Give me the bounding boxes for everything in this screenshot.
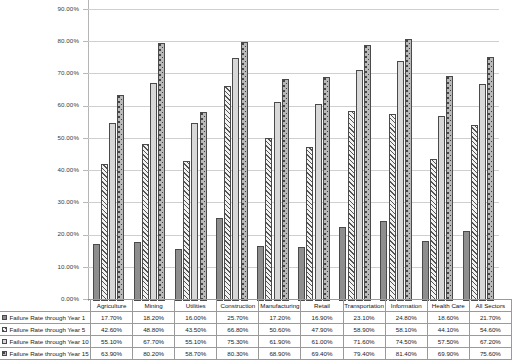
bar[interactable]: [405, 39, 412, 301]
table-cell-value: 57.50%: [427, 336, 469, 348]
table-cell-value: 24.80%: [385, 312, 427, 324]
table-cell-value: 68.90%: [259, 348, 301, 360]
table-cell-value: 69.90%: [427, 348, 469, 360]
table-cell-value: 17.70%: [91, 312, 133, 324]
bar-group: [252, 0, 293, 303]
bar[interactable]: [438, 116, 445, 301]
bar[interactable]: [463, 231, 470, 301]
bar[interactable]: [356, 70, 363, 301]
bar[interactable]: [175, 249, 182, 301]
bar-group: [417, 0, 458, 303]
bar[interactable]: [487, 57, 494, 301]
bar[interactable]: [323, 77, 330, 301]
bar[interactable]: [364, 45, 371, 301]
table-cell-value: 75.30%: [217, 336, 259, 348]
table-header-row: AgricultureMiningUtilitiesConstructionMa…: [0, 300, 511, 312]
bar[interactable]: [257, 246, 264, 301]
legend-entry[interactable]: Failure Rate through Year 10: [0, 336, 91, 348]
table-column-header: Health Care: [427, 300, 469, 312]
table-cell-value: 71.60%: [343, 336, 385, 348]
legend-series-name: Failure Rate through Year 15: [10, 348, 89, 359]
legend-swatch-icon: [2, 315, 7, 320]
bar[interactable]: [389, 114, 396, 301]
table-body: Failure Rate through Year 117.70%18.20%1…: [0, 312, 511, 360]
bar[interactable]: [191, 123, 198, 301]
table-cell-value: 23.10%: [343, 312, 385, 324]
table-column-header: Mining: [133, 300, 175, 312]
legend-series-name: Failure Rate through Year 5: [10, 324, 86, 335]
y-axis-tick-label: 50.00%: [9, 135, 79, 141]
bar[interactable]: [216, 218, 223, 301]
bar-group: [88, 0, 129, 303]
table-cell-value: 18.60%: [427, 312, 469, 324]
bar[interactable]: [142, 144, 149, 301]
y-axis-tick-label: 10.00%: [9, 264, 79, 270]
legend-row-label: Failure Rate through Year 5: [2, 324, 85, 335]
table-cell-value: 43.50%: [175, 324, 217, 336]
legend-row-label: Failure Rate through Year 1: [2, 312, 85, 323]
bar[interactable]: [265, 138, 272, 301]
legend-entry[interactable]: Failure Rate through Year 5: [0, 324, 91, 336]
legend-entry[interactable]: Failure Rate through Year 1: [0, 312, 91, 324]
y-axis: 90.00%80.00%70.00%60.00%50.00%40.00%30.0…: [0, 0, 88, 301]
legend-row-label: Failure Rate through Year 15: [2, 348, 89, 359]
table-row: Failure Rate through Year 1563.90%80.20%…: [0, 348, 511, 360]
table-cell-value: 75.60%: [469, 348, 511, 360]
table-cell-value: 61.00%: [301, 336, 343, 348]
table-column-header: Agriculture: [91, 300, 133, 312]
bar[interactable]: [471, 125, 478, 301]
bar[interactable]: [282, 79, 289, 301]
bar[interactable]: [446, 76, 453, 301]
bar[interactable]: [232, 58, 239, 301]
table-column-header: Manufacturing: [259, 300, 301, 312]
table-cell-value: 58.70%: [175, 348, 217, 360]
bar-group: [211, 0, 252, 303]
bar[interactable]: [306, 147, 313, 301]
table-cell-value: 18.20%: [133, 312, 175, 324]
bar[interactable]: [134, 242, 141, 301]
table-cell-value: 79.40%: [343, 348, 385, 360]
bar[interactable]: [200, 112, 207, 301]
table-cell-value: 67.20%: [469, 336, 511, 348]
bar[interactable]: [117, 95, 124, 301]
table-column-header: Retail: [301, 300, 343, 312]
bar-groups: [88, 0, 499, 301]
bar[interactable]: [397, 61, 404, 301]
plot-area: 90.00%80.00%70.00%60.00%50.00%40.00%30.0…: [0, 0, 499, 301]
y-axis-tick-label: 20.00%: [9, 231, 79, 237]
bar[interactable]: [380, 221, 387, 301]
bar[interactable]: [479, 84, 486, 301]
bar-group: [458, 0, 499, 303]
y-axis-tick-label: 60.00%: [9, 102, 79, 108]
bar[interactable]: [93, 244, 100, 301]
bar[interactable]: [109, 123, 116, 301]
bar[interactable]: [241, 42, 248, 301]
table-cell-value: 66.80%: [217, 324, 259, 336]
bar[interactable]: [158, 43, 165, 301]
legend-swatch-icon: [2, 339, 7, 344]
bar[interactable]: [101, 164, 108, 301]
bar[interactable]: [298, 247, 305, 301]
bar[interactable]: [150, 83, 157, 301]
table-cell-value: 21.70%: [469, 312, 511, 324]
bar[interactable]: [183, 161, 190, 301]
y-axis-tick-label: 40.00%: [9, 167, 79, 173]
bar[interactable]: [422, 241, 429, 301]
bar[interactable]: [348, 111, 355, 301]
bar-group: [170, 0, 211, 303]
table-column-header: Transportation: [343, 300, 385, 312]
legend-entry[interactable]: Failure Rate through Year 15: [0, 348, 91, 360]
bar[interactable]: [274, 102, 281, 301]
table-column-header: Utilities: [175, 300, 217, 312]
bar[interactable]: [430, 159, 437, 301]
table-cell-value: 42.60%: [91, 324, 133, 336]
bar-group: [376, 0, 417, 303]
table-cell-value: 16.90%: [301, 312, 343, 324]
bar[interactable]: [339, 227, 346, 301]
bar[interactable]: [315, 104, 322, 301]
table-cell-value: 16.00%: [175, 312, 217, 324]
bar[interactable]: [224, 86, 231, 301]
table-cell-value: 67.70%: [133, 336, 175, 348]
table-row: Failure Rate through Year 1055.10%67.70%…: [0, 336, 511, 348]
